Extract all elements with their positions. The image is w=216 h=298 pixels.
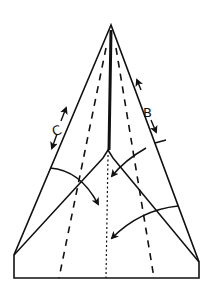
lower-right-fold-arrow-icon [112,206,178,238]
b-up-arrow-icon [137,80,141,90]
folding-diagram: C B [0,0,216,298]
label-b: B [143,105,152,120]
dashed-fold-lines [59,48,154,278]
label-c: C [50,122,64,139]
b-down-arrow-icon [151,120,156,132]
c-up-arrow-icon [61,108,66,121]
edge-arrows [52,80,156,148]
left-fold-arrow-icon [50,168,98,204]
